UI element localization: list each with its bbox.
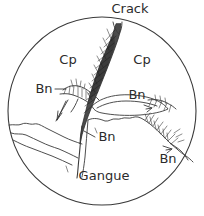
label-crack: Crack	[111, 1, 149, 16]
label-bn-center: Bn	[98, 129, 115, 144]
figure-canvas: Crack Cp Cp Bn Bn Bn Bn Gangue	[0, 0, 204, 216]
label-bn-right: Bn	[128, 87, 145, 102]
label-bn-left: Bn	[35, 81, 52, 96]
label-cp-left: Cp	[59, 52, 76, 67]
label-bn-lower-right: Bn	[159, 151, 176, 166]
label-cp-right: Cp	[133, 52, 150, 67]
label-gangue: Gangue	[79, 168, 130, 183]
sketch-diagram: Crack Cp Cp Bn Bn Bn Bn Gangue	[0, 0, 204, 216]
